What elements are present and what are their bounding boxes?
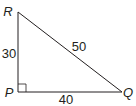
side-label-rp: 30 <box>2 46 16 61</box>
right-angle-marker <box>18 84 26 92</box>
vertex-label-q: Q <box>123 85 133 100</box>
triangle-diagram: R P Q 30 50 40 <box>0 0 136 106</box>
side-label-rq: 50 <box>72 39 86 54</box>
vertex-label-r: R <box>3 4 12 19</box>
triangle-pqr <box>18 12 122 92</box>
vertex-label-p: P <box>5 85 14 100</box>
side-label-pq: 40 <box>59 92 73 106</box>
